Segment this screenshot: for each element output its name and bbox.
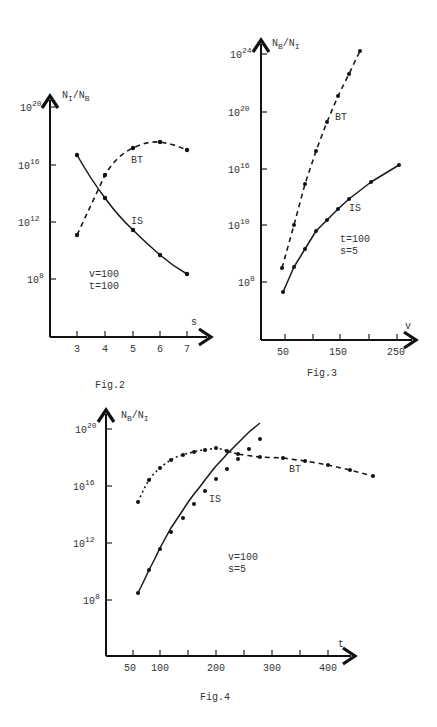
fig3-ytick-20: 1020 (228, 104, 250, 119)
fig4-xtick: 200 (207, 663, 225, 674)
fig4-ytick-16: 1016 (73, 478, 95, 493)
fig3-is-curve (283, 165, 399, 292)
fig2-ytick-8: 108 (27, 271, 44, 286)
fig3-param-t: t=100 (340, 234, 370, 245)
fig4-bt-label: BT (289, 464, 301, 475)
figure-canvas: 1020 1016 1012 108 NI/NB 3 4 5 6 7 s BT … (0, 0, 437, 727)
fig4-bt-curve-early (138, 448, 238, 502)
fig3-chart: 1024 1020 1016 1010 108 NB/NI 50 150 250… (228, 38, 412, 379)
fig4-ytick-20: 1020 (75, 421, 97, 436)
fig4-xlabel: t (338, 639, 344, 650)
fig2-xtick: 4 (102, 344, 108, 355)
fig4-xtick: 50 (124, 663, 136, 674)
fig2-ylabel: NI/NB (62, 90, 90, 103)
fig3-xtick: 50 (277, 347, 289, 358)
fig2-xtick: 3 (74, 344, 80, 355)
fig3-ytick-24: 1024 (230, 46, 252, 61)
fig2-param-v: v=100 (89, 269, 119, 280)
fig2-caption: Fig.2 (95, 380, 125, 391)
fig4-param-v: v=100 (228, 552, 258, 563)
fig2-bt-label: BT (131, 155, 143, 166)
fig2-is-label: IS (131, 216, 143, 227)
fig4-xtick: 100 (151, 663, 169, 674)
fig2-xtick: 7 (184, 344, 190, 355)
fig4-ytick-8: 108 (83, 592, 100, 607)
fig4-xtick: 300 (263, 663, 281, 674)
fig3-param-s: s=5 (340, 246, 358, 257)
fig4-ytick-12: 1012 (73, 535, 95, 550)
fig4-ylabel: NB/NI (121, 410, 149, 423)
fig2-param-t: t=100 (89, 281, 119, 292)
fig3-ytick-10: 1010 (228, 217, 250, 232)
fig2-ytick-16: 1016 (18, 157, 40, 172)
fig3-ylabel: NB/NI (272, 38, 300, 51)
fig2-chart: 1020 1016 1012 108 NI/NB 3 4 5 6 7 s BT … (18, 90, 207, 391)
fig4-xtick: 400 (319, 663, 337, 674)
fig3-xtick: 250 (387, 347, 405, 358)
fig2-ytick-12: 1012 (18, 214, 40, 229)
fig2-is-curve (77, 155, 187, 274)
fig2-xlabel: s (191, 317, 197, 328)
fig2-xtick: 5 (130, 344, 136, 355)
fig2-ytick-20: 1020 (20, 99, 42, 114)
fig3-ytick-16: 1016 (228, 161, 250, 176)
fig4-is-label: IS (209, 494, 221, 505)
fig3-ytick-8: 108 (238, 274, 255, 289)
fig3-is-label: IS (349, 203, 361, 214)
fig3-caption: Fig.3 (307, 368, 337, 379)
fig3-xtick: 150 (329, 347, 347, 358)
fig3-bt-label: BT (335, 112, 347, 123)
fig2-xtick: 6 (157, 344, 163, 355)
fig3-xlabel: v (405, 321, 411, 332)
fig4-chart: 1020 1016 1012 108 NB/NI 50 100 200 300 … (73, 410, 375, 703)
fig4-param-s: s=5 (228, 564, 246, 575)
fig4-caption: Fig.4 (200, 692, 230, 703)
